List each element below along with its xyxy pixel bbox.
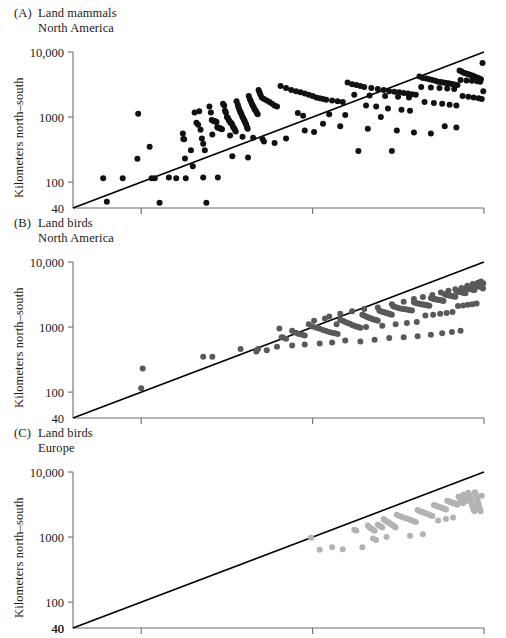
data-point (422, 99, 428, 105)
scatter-points (100, 60, 486, 206)
data-point (359, 544, 365, 550)
data-point (428, 84, 434, 90)
data-point (340, 99, 346, 105)
data-point (479, 96, 485, 102)
data-point (283, 336, 289, 342)
data-point (245, 154, 251, 160)
data-point (413, 519, 419, 525)
data-point (250, 135, 256, 141)
data-point (385, 106, 391, 112)
data-point (120, 175, 126, 181)
data-point (200, 141, 206, 147)
data-point (147, 144, 153, 150)
data-point (181, 136, 187, 142)
data-point (463, 77, 469, 83)
y-tick-label: 100 (45, 176, 64, 190)
data-point (455, 303, 461, 309)
data-point (477, 79, 483, 85)
data-point (411, 296, 417, 302)
data-point (264, 347, 270, 353)
data-point (182, 156, 188, 162)
data-point (372, 337, 378, 343)
data-point (384, 534, 390, 540)
data-point (479, 493, 485, 499)
data-point (219, 126, 225, 132)
data-point (407, 533, 413, 539)
data-point (442, 123, 448, 129)
data-point (375, 304, 381, 310)
data-point (337, 311, 343, 317)
data-point (393, 321, 399, 327)
data-point (404, 320, 410, 326)
data-point (289, 343, 295, 349)
data-point (214, 119, 220, 125)
data-point (445, 288, 451, 294)
data-point (429, 513, 435, 519)
data-point (444, 310, 450, 316)
panel-a-plot: 40100100010,000 (0, 6, 506, 218)
data-point (334, 321, 340, 327)
data-point (471, 508, 477, 514)
data-point (379, 525, 385, 531)
data-point (437, 85, 443, 91)
data-point (335, 98, 341, 104)
data-point (240, 134, 246, 140)
data-point (439, 330, 445, 336)
data-point (140, 366, 146, 372)
data-point (104, 199, 110, 205)
y-tick-label: 100 (45, 386, 64, 400)
data-point (353, 528, 359, 534)
data-point (196, 108, 202, 114)
data-point (401, 334, 407, 340)
y-tick-label: 40 (52, 412, 65, 426)
data-point (431, 100, 437, 106)
data-point (458, 77, 464, 83)
data-point (361, 84, 367, 90)
data-point (221, 103, 227, 109)
data-point (389, 148, 395, 154)
data-point (420, 531, 426, 537)
data-point (440, 298, 446, 304)
data-point (373, 104, 379, 110)
data-point (329, 339, 335, 345)
data-point (460, 93, 466, 99)
y-tick-label: 40 (52, 202, 65, 216)
data-point (209, 131, 215, 137)
data-point (202, 147, 208, 153)
data-point (394, 128, 400, 134)
y-tick-label: 1000 (39, 531, 64, 545)
data-point (317, 547, 323, 553)
data-point (166, 174, 172, 180)
data-point (437, 311, 443, 317)
data-point (363, 103, 369, 109)
data-point (229, 153, 235, 159)
data-point (372, 528, 378, 534)
data-point (430, 312, 436, 318)
data-point (480, 286, 486, 292)
panel-a: (A)Land mammals North America Kilometers… (0, 6, 506, 218)
data-point (335, 331, 341, 337)
panel-c-plot: 40100100010,000100100010,00040 (0, 426, 506, 638)
data-point (411, 129, 417, 135)
data-point (173, 175, 179, 181)
data-point (311, 129, 317, 135)
data-point (395, 94, 401, 100)
data-point (429, 292, 435, 298)
data-point (157, 200, 163, 206)
data-point (138, 385, 144, 391)
data-point (245, 126, 251, 132)
data-point (200, 174, 206, 180)
data-point (464, 283, 470, 289)
data-point (190, 163, 196, 169)
data-point (453, 103, 459, 109)
data-point (342, 338, 348, 344)
data-point (439, 101, 445, 107)
data-point (326, 111, 332, 117)
data-point (449, 329, 455, 335)
data-point (420, 294, 426, 300)
data-point (406, 94, 412, 100)
data-point (422, 313, 428, 319)
data-point (199, 135, 205, 141)
data-point (459, 285, 465, 291)
data-point (357, 325, 363, 331)
